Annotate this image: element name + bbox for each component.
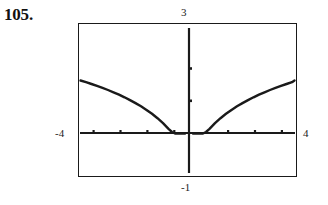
problem-number-label: 105. [4,5,33,25]
y-max-label: 3 [181,6,187,18]
curve-right-branch [193,81,295,134]
calculator-figure: 105. [0,0,328,205]
x-axis-group [80,130,295,133]
curve-left-branch [81,81,186,134]
plot-area [78,23,297,177]
y-axis-group [189,28,192,173]
x-max-label: 4 [303,127,309,139]
y-min-label: -1 [181,181,190,193]
calculator-screen [78,23,297,177]
x-min-label: -4 [55,127,64,139]
